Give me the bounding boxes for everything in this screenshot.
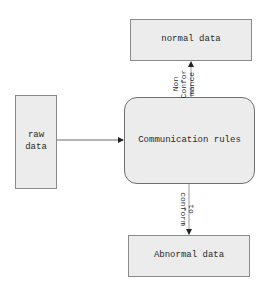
node-raw-data-label: raw data bbox=[20, 130, 52, 153]
edge-label-non-conformance: Non Confor mance bbox=[172, 64, 196, 104]
node-communication-rules-label: Communication rules bbox=[138, 135, 241, 147]
edge-label-line: to bbox=[187, 187, 195, 231]
node-raw-data: raw data bbox=[15, 95, 57, 189]
node-communication-rules: Communication rules bbox=[124, 97, 255, 184]
node-abnormal-data-label: Abnormal data bbox=[154, 250, 224, 262]
edge-label-line: conform bbox=[179, 187, 187, 231]
edge-label-line: mance bbox=[188, 64, 196, 104]
edge-label-conform-to: to conform bbox=[179, 187, 195, 231]
node-normal-data: normal data bbox=[130, 19, 252, 61]
node-abnormal-data: Abnormal data bbox=[128, 235, 250, 277]
node-normal-data-label: normal data bbox=[161, 34, 220, 46]
